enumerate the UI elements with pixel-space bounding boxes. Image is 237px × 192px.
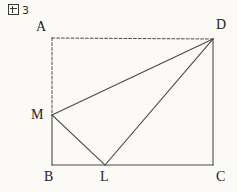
segment-AD xyxy=(52,38,213,39)
segment-ML xyxy=(52,115,105,165)
vertex-label-d: D xyxy=(216,18,226,32)
segment-layer xyxy=(52,38,213,165)
vertex-label-a: A xyxy=(36,20,46,34)
segment-LD xyxy=(105,39,213,165)
vertex-label-m: M xyxy=(31,108,43,122)
vertex-label-b: B xyxy=(44,170,53,184)
segment-MD xyxy=(52,39,213,115)
vertex-label-c: C xyxy=(216,170,225,184)
vertex-label-l: L xyxy=(100,170,109,184)
figure-container: 3 ABCDLM xyxy=(0,0,237,192)
